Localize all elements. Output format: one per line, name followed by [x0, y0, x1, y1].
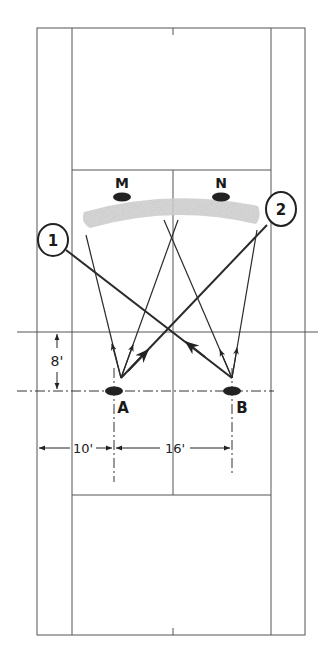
side-offset-label: 10': [73, 441, 93, 456]
callout-1-label: 1: [48, 232, 58, 250]
callout-2-label: 2: [276, 201, 286, 219]
court-lines: [17, 28, 318, 635]
player-spacing-label: 16': [165, 441, 185, 456]
depth-dimension: 8': [51, 334, 64, 389]
depth-label: 8': [51, 353, 64, 369]
player-m: M: [113, 175, 131, 202]
court-diagram: M N A B 1 2: [0, 0, 320, 662]
player-b: B: [223, 387, 248, 418]
callout-1: 1: [38, 224, 68, 256]
player-m-label: M: [115, 175, 129, 191]
player-n: N: [212, 175, 230, 202]
path-callout-1: [66, 250, 232, 378]
player-n-label: N: [215, 175, 227, 191]
callout-paths: [66, 225, 267, 378]
callout-2: 2: [266, 192, 296, 226]
player-a-label: A: [117, 399, 129, 417]
shot-paths-b: [164, 220, 257, 378]
width-dimensions: 10' 16': [39, 441, 230, 456]
shot-paths-a: [86, 220, 178, 378]
player-b-label: B: [236, 399, 247, 417]
